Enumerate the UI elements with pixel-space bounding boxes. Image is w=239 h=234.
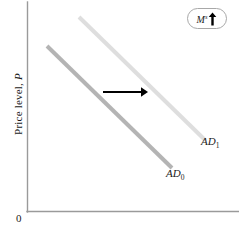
curve-ad1 [79,17,205,140]
rightward-shift-arrow [103,87,148,97]
arrow-head [141,87,148,97]
curve-ad0 [47,46,172,168]
plot-canvas [0,0,239,234]
aggregate-demand-shift-diagram: Price level, P 0 AD1 AD0 Ms [0,0,239,234]
